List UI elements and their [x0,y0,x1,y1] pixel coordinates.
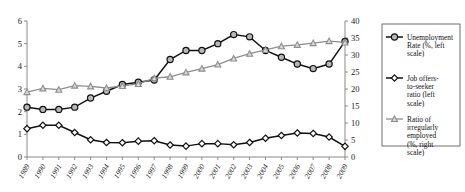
series-marker [72,104,78,110]
x-axis-tick-label: 2001 [207,163,222,181]
series-marker [199,47,205,53]
x-axis-tick-label: 1995 [112,162,127,180]
x-axis-tick-label: 1992 [64,162,79,180]
series-marker [262,135,268,141]
series-marker [326,134,332,140]
series-marker [40,122,46,128]
right-axis-tick-label: 35 [351,33,360,43]
series-marker [247,34,253,40]
series-marker [167,74,173,80]
left-axis-tick-label: 1 [18,129,22,139]
left-axis-tick-label: 4 [18,61,23,71]
x-axis-tick-label: 2007 [303,161,319,180]
series-marker [167,56,173,62]
x-axis-tick-label: 1993 [80,162,95,180]
series-marker [231,55,237,61]
series-marker [183,143,189,149]
series-2 [24,122,348,149]
series-marker [167,142,173,148]
series-marker [310,40,316,46]
series-marker [278,43,284,49]
left-axis-tick-label: 3 [18,84,22,94]
series-marker [151,137,157,143]
series-marker [199,66,205,72]
series-marker [183,47,189,53]
x-axis-tick-label: 2009 [334,162,349,180]
right-axis-tick-label: 0 [351,152,355,162]
series-marker [231,142,237,148]
right-axis-tick-label: 40 [351,16,360,26]
series-marker [24,89,30,95]
series-marker [294,42,300,48]
series-marker [40,106,46,112]
series-marker [326,38,332,44]
series-marker [246,139,252,145]
x-axis-tick-label: 1997 [144,161,160,180]
right-axis-tick-label: 15 [351,101,360,111]
series-marker [294,130,300,136]
x-axis-tick-label: 2008 [318,162,333,180]
series-marker [215,41,221,47]
series-marker [72,129,78,135]
legend-label: scale) [407,148,425,157]
chart-legend: UnemploymentRate (%, leftscale)Job offer… [382,24,460,157]
legend-swatch-marker [391,34,397,40]
series-marker [119,140,125,146]
series-marker [88,83,94,89]
x-axis-tick-label: 1990 [32,162,47,180]
chart-figure: 01234560510152025303540 1989199019911992… [0,0,465,192]
right-axis-tick-label: 30 [351,50,360,60]
right-axis-tick-label: 20 [351,84,360,94]
series-marker [40,85,46,91]
left-axis-tick-label: 6 [18,16,22,26]
x-axis-tick-label: 2000 [191,162,206,180]
x-axis-tick-label: 1996 [128,162,143,180]
series-marker [247,51,253,57]
series-marker [310,130,316,136]
series-marker [56,106,62,112]
line-chart-svg: 01234560510152025303540 1989199019911992… [0,0,465,192]
series-marker [87,137,93,143]
x-axis-tick-label: 2006 [287,162,302,180]
right-axis-tick-label: 5 [351,135,355,145]
x-axis-tick-label: 2005 [271,162,286,180]
x-axis-tick-label: 1991 [48,163,63,181]
series-marker [278,54,284,60]
x-axis-tick-label: 2003 [239,162,254,180]
x-axis-labels: 1989199019911992199319941995199619971998… [16,157,349,180]
series-marker [294,61,300,67]
left-axis-tick-label: 0 [18,152,22,162]
series-marker [342,143,348,149]
series-marker [24,104,30,110]
series-marker [199,140,205,146]
series-marker [104,85,110,91]
left-axis-tick-label: 5 [18,39,22,49]
series-marker [183,69,189,75]
series-marker [310,66,316,72]
series-marker [103,139,109,145]
series-marker [24,125,30,131]
legend-label: scale) [407,99,425,108]
series-marker [88,95,94,101]
series-marker [278,132,284,138]
left-axis-tick-label: 2 [18,107,22,117]
x-axis-tick-label: 1999 [175,162,190,180]
series-marker [215,140,221,146]
right-axis-tick-label: 10 [351,118,360,128]
chart-axes: 01234560510152025303540 [18,16,360,162]
x-axis-tick-label: 1998 [159,162,174,180]
series-marker [215,62,221,68]
x-axis-tick-label: 1989 [16,162,31,180]
series-marker [72,83,78,89]
series-marker [56,87,62,93]
series-marker [151,75,157,81]
x-axis-tick-label: 2004 [255,162,270,180]
chart-series [24,31,348,149]
x-axis-tick-label: 2002 [223,162,238,180]
x-axis-tick-label: 1994 [96,162,111,180]
legend-label: scale) [407,49,425,58]
right-axis-tick-label: 25 [351,67,360,77]
series-marker [326,61,332,67]
series-marker [135,138,141,144]
series-marker [56,122,62,128]
